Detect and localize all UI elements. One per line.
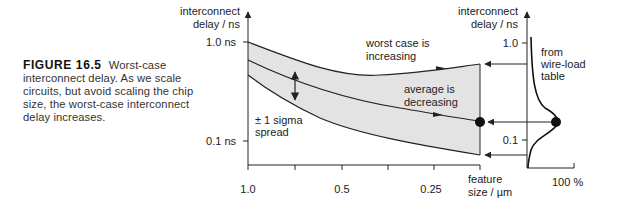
right-ylabel-line1: interconnect [458, 5, 518, 17]
interconnect-delay-diagram: interconnect delay / ns 1.0 ns 0.1 ns 1.… [0, 0, 617, 211]
x-ticks [248, 165, 480, 170]
source-label-line1: from [541, 46, 563, 58]
right-ytick-label-bottom: 0.1 [503, 134, 518, 146]
source-label-line2: wire-load [540, 58, 586, 70]
sigma-label-line2: spread [255, 126, 289, 138]
sigma-label-line1: ± 1 sigma [255, 114, 303, 126]
right-ylabel-line2: delay / ns [471, 18, 519, 30]
distribution-peak-dot [551, 117, 561, 127]
right-ytick-label-top: 1.0 [503, 37, 518, 49]
source-label-line3: table [541, 70, 565, 82]
xtick-label-0.25: 0.25 [420, 183, 441, 195]
left-ylabel-line1: interconnect [180, 5, 240, 17]
ytick-label-bottom: 0.1 ns [206, 135, 236, 147]
xlabel-line1: feature [468, 173, 502, 185]
left-ylabel-line2: delay / ns [193, 18, 241, 30]
worst-case-label-line2: increasing [366, 50, 416, 62]
average-label-line1: average is [404, 83, 455, 95]
average-label-line2: decreasing [404, 96, 458, 108]
xtick-label-0.5: 0.5 [334, 183, 349, 195]
ytick-label-top: 1.0 ns [206, 36, 236, 48]
xtick-label-1.0: 1.0 [240, 183, 255, 195]
average-endpoint-dot [475, 117, 485, 127]
xlabel-line2: size / µm [468, 186, 512, 198]
worst-case-label-line1: worst case is [365, 37, 430, 49]
right-xlabel: 100 % [552, 176, 583, 188]
